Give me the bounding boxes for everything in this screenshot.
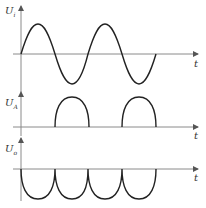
x-label-A: t	[194, 130, 199, 141]
waveform-diagram: Ui t UA t Uo t	[0, 0, 206, 208]
x-label-input: t	[194, 58, 199, 69]
half-wave-hump-2	[122, 97, 156, 127]
panel-A: UA t	[5, 92, 199, 141]
y-label-A: UA	[5, 97, 18, 110]
x-label-output: t	[194, 172, 199, 183]
y-label-input: Ui	[5, 5, 15, 18]
y-label-output: Uo	[5, 143, 17, 156]
panel-input: Ui t	[5, 5, 199, 92]
half-wave-hump-1	[55, 97, 89, 127]
panel-output: Uo t	[5, 138, 199, 201]
full-wave-rectified	[21, 169, 156, 199]
